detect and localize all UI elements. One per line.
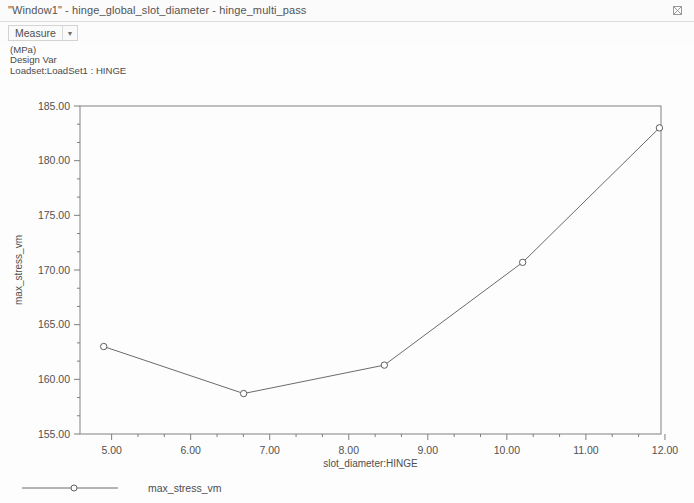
x-tick-label: 12.00 xyxy=(652,444,678,456)
x-tick-label: 9.00 xyxy=(418,444,439,456)
window-title: "Window1" - hinge_global_slot_diameter -… xyxy=(8,4,306,16)
x-tick-label: 11.00 xyxy=(573,444,599,456)
data-point xyxy=(101,343,107,349)
plot-header-info: (MPa) Design Var Loadset:LoadSet1 : HING… xyxy=(10,45,126,76)
x-axis-title: slot_diameter:HINGE xyxy=(323,458,418,469)
x-tick-label: 8.00 xyxy=(339,444,360,456)
y-tick-label: 185.00 xyxy=(38,100,70,112)
line-chart: 155.00160.00165.00170.00175.00180.00185.… xyxy=(0,92,694,503)
chart-area: 155.00160.00165.00170.00175.00180.00185.… xyxy=(0,92,694,503)
measure-dropdown[interactable]: Measure ▼ xyxy=(8,25,78,41)
legend-marker xyxy=(71,485,77,491)
x-tick-label: 6.00 xyxy=(180,444,201,456)
plot-window: "Window1" - hinge_global_slot_diameter -… xyxy=(0,0,694,503)
data-point xyxy=(381,362,387,368)
y-tick-label: 155.00 xyxy=(38,428,70,440)
y-axis-title: max_stress_vm xyxy=(13,235,24,305)
y-tick-label: 175.00 xyxy=(38,209,70,221)
chevron-down-icon[interactable]: ▼ xyxy=(62,26,77,40)
y-tick-label: 170.00 xyxy=(38,264,70,276)
measure-dropdown-label: Measure xyxy=(9,26,62,40)
legend-label: max_stress_vm xyxy=(148,482,222,494)
restore-window-icon[interactable] xyxy=(671,4,684,17)
y-tick-label: 180.00 xyxy=(38,154,70,166)
series-line xyxy=(104,128,660,394)
loadset-label: Loadset:LoadSet1 : HINGE xyxy=(10,66,126,76)
toolbar: Measure ▼ xyxy=(0,22,694,44)
x-tick-label: 10.00 xyxy=(494,444,520,456)
x-tick-label: 5.00 xyxy=(101,444,122,456)
window-title-bar: "Window1" - hinge_global_slot_diameter -… xyxy=(0,0,694,22)
x-tick-label: 7.00 xyxy=(259,444,280,456)
plot-frame xyxy=(80,106,661,434)
data-point xyxy=(240,390,246,396)
y-tick-label: 160.00 xyxy=(38,373,70,385)
data-point xyxy=(656,125,662,131)
y-tick-label: 165.00 xyxy=(38,318,70,330)
data-point xyxy=(519,259,525,265)
